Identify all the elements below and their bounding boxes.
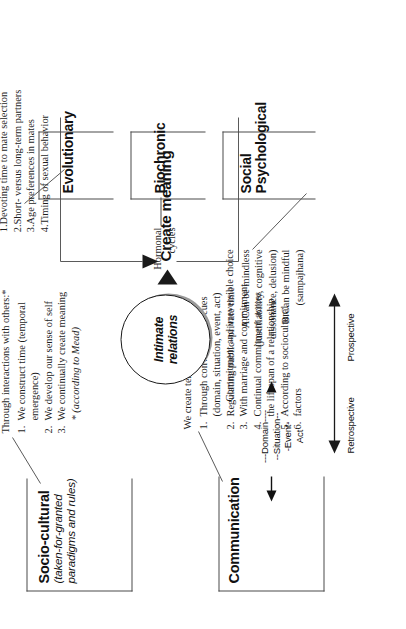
center-node-line1: Intimate: [151, 314, 165, 363]
list-item-text: emergence): [27, 372, 41, 433]
list-item-text: We continually create meaning: [54, 291, 68, 420]
list-item: dissonance, delusion): [265, 249, 279, 429]
list-item: 1.Devoting time to mate selection: [0, 89, 10, 237]
list-item: (sampajhana): [292, 249, 306, 429]
biochronic-bracket: [130, 131, 205, 199]
social-psychological-callout: Commitment and irreversible choice A.Can…: [222, 249, 305, 429]
list-item-text: (domain, situation, event, act): [209, 292, 223, 429]
socio-cultural-footnote: * (according to Mead): [68, 289, 82, 433]
socio-cultural-callout-header: Through interactions with others:*: [0, 289, 12, 433]
biochronic-connector: [160, 197, 161, 225]
biochronic-callout-line1: Hormonal: [150, 227, 164, 285]
list-item-text: We construct time (temporal: [14, 302, 28, 420]
list-item-number: 2.: [10, 224, 24, 237]
communication-title: Communication: [226, 403, 241, 583]
socio-cultural-callout: Through interactions with others:* 1.We …: [0, 289, 81, 433]
list-item-text: Timing of sexual behavior: [37, 114, 51, 224]
list-item-number: 2.: [41, 420, 55, 433]
social-psychological-callout-header: Commitment and irreversible choice: [222, 249, 236, 429]
evolutionary-callout: 1.Devoting time to mate selection 2.Shor…: [0, 89, 50, 237]
temporal-axis-arrow-icon: [326, 293, 342, 453]
list-item: 3.We continually create meaning: [54, 289, 68, 433]
biochronic-callout-line2: cycles: [164, 227, 178, 285]
list-item: 2.Short- versus long-term partners: [10, 89, 24, 237]
socio-cultural-footnote-text: * (according to Mead): [68, 327, 82, 433]
list-item: B.Can be mindful: [278, 249, 292, 429]
social-psychological-leader: [250, 189, 310, 251]
list-item-text: Can be mindless: [238, 249, 252, 318]
list-item-text: We develop our sense of self: [41, 301, 55, 420]
list-item: 4.Timing of sexual behavior: [37, 89, 51, 237]
list-item: (justifiability, cognitive: [251, 249, 265, 429]
social-psychological-title-line2: Psychological: [253, 33, 268, 193]
social-psychological-title-line1: Social: [238, 33, 253, 193]
list-item-number: 3.: [54, 420, 68, 433]
list-item: emergence): [27, 289, 41, 433]
list-item-text: Short- versus long-term partners: [10, 89, 24, 224]
list-item-number: 4.: [37, 224, 51, 237]
biochronic-callout: Hormonal cycles: [150, 227, 177, 285]
list-item: A.Can be mindless: [238, 249, 252, 429]
list-item-number: 3.: [23, 224, 37, 237]
list-item-text: Can be mindful: [278, 249, 292, 314]
center-node-line2: relations: [165, 314, 179, 363]
socio-cultural-subtitle-line1: (taken-for-granted: [51, 433, 63, 583]
list-item: 3.Age preferences in mates: [23, 89, 37, 237]
ladder-left-arrow-icon: [264, 475, 278, 501]
list-item-text: (sampajhana): [292, 249, 306, 305]
list-item-number: B.: [278, 314, 292, 328]
center-node: Intimate relations: [120, 294, 210, 384]
axis-label-retrospective: Retrospective: [344, 397, 355, 453]
socio-cultural-subtitle-line2: paradigms and rules): [64, 433, 76, 583]
list-item-number: 1.: [196, 416, 210, 429]
list-item-text: Age preferences in mates: [23, 119, 37, 224]
social-psychological-title-group: Social Psychological: [238, 33, 268, 193]
figure-canvas: Socio-cultural (taken-for-granted paradi…: [0, 0, 406, 629]
biochronic-title: Biochronic: [152, 73, 167, 193]
list-item-text: Devoting time to mate selection: [0, 91, 10, 224]
diagram-root: Socio-cultural (taken-for-granted paradi…: [0, 0, 406, 629]
list-item: (domain, situation, event, act): [209, 283, 223, 429]
list-item-number: 1.: [0, 224, 10, 237]
list-item: 2.We develop our sense of self: [41, 289, 55, 433]
list-item-text: (justifiability, cognitive: [251, 249, 265, 346]
list-item-number: A.: [238, 318, 252, 332]
list-item: 1.We construct time (temporal: [14, 289, 28, 433]
axis-label-prospective: Prospective: [344, 313, 355, 361]
list-item-number: 1.: [14, 420, 28, 433]
list-item-text: dissonance, delusion): [265, 249, 279, 338]
